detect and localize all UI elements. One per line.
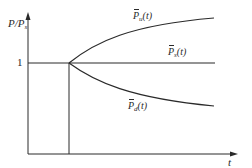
- y-axis-label: P/Ps: [8, 18, 27, 31]
- x-axis-label: t: [228, 157, 231, 168]
- series-pu-label-arg: (t): [143, 10, 152, 21]
- series-pu-curve: [69, 18, 214, 63]
- series-pd-label-arg: (t): [138, 100, 147, 111]
- series-ps-label: Ps(t): [168, 47, 186, 59]
- series-pd-label: Pd(t): [128, 101, 147, 113]
- chart-canvas: [0, 0, 252, 168]
- series-pu-label: Pu(t): [133, 11, 152, 23]
- y-tick-one: 1: [17, 57, 23, 68]
- series-ps-label-base: P: [168, 47, 174, 57]
- x-axis-arrow-icon: [230, 152, 238, 157]
- series-pd-label-base: P: [128, 101, 134, 111]
- y-axis-label-sub: s: [25, 23, 28, 31]
- y-axis-label-main: P/P: [8, 17, 25, 29]
- series-pu-label-base: P: [133, 11, 139, 21]
- series-ps-label-arg: (t): [177, 46, 186, 57]
